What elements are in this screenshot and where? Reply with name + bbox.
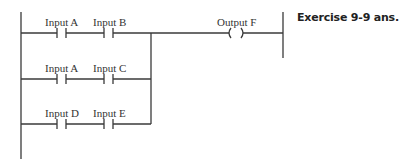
exercise-title: Exercise 9-9 ans. (297, 11, 399, 24)
output-label: Output F (217, 16, 256, 28)
contact-label: Input B (93, 16, 126, 28)
contact-label: Input C (93, 62, 126, 74)
contact-label: Input E (93, 107, 126, 119)
coil-right-arc (241, 28, 243, 38)
coil-left-arc (229, 28, 231, 38)
rung-2 (21, 74, 151, 84)
rung-1 (21, 28, 151, 38)
rung-3 (21, 119, 151, 129)
ladder-diagram: Input A Input B Input A Input C Input D … (0, 0, 405, 167)
contact-label: Input D (45, 107, 79, 119)
contact-label: Input A (45, 16, 78, 28)
contact-label: Input A (45, 62, 78, 74)
